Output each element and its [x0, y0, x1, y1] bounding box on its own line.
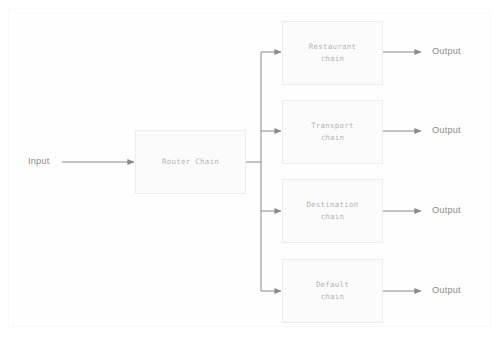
node-restaurant-chain[interactable]: Restaurant chain — [282, 21, 383, 85]
node-destination-chain-label: Destination chain — [306, 199, 358, 223]
diagram-canvas: Input Router Chain Restaurant chain Outp… — [0, 0, 500, 337]
node-transport-chain-label: Transport chain — [311, 120, 354, 144]
connector-layer — [0, 0, 500, 337]
node-destination-chain[interactable]: Destination chain — [282, 179, 383, 243]
node-router-chain[interactable]: Router Chain — [135, 130, 246, 194]
output-label-transport: Output — [432, 125, 461, 135]
node-transport-chain[interactable]: Transport chain — [282, 100, 383, 164]
node-restaurant-chain-label: Restaurant chain — [309, 41, 357, 65]
input-label: Input — [28, 156, 49, 166]
node-default-chain-label: Default chain — [316, 279, 349, 303]
output-label-default: Output — [432, 285, 461, 295]
node-default-chain[interactable]: Default chain — [282, 259, 383, 323]
node-router-chain-label: Router Chain — [162, 156, 219, 168]
output-label-destination: Output — [432, 205, 461, 215]
output-label-restaurant: Output — [432, 46, 461, 56]
